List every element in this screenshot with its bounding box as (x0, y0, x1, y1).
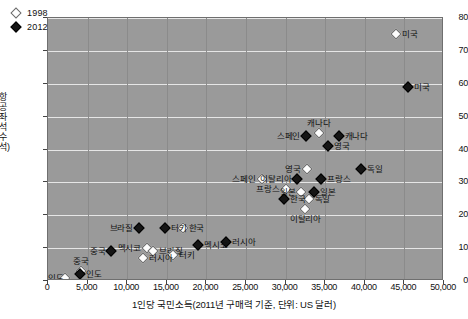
data-point-label: 한국 (290, 195, 306, 204)
x-axis-tick-label: 50,000 (420, 283, 466, 292)
legend-item-label: 1998 (27, 8, 48, 18)
gridline-horizontal (48, 84, 442, 85)
plot-area: 미국캐나다영국스페인프랑스일본독일이탈리아한국멕시코브라질터키러시아중국인도미국… (47, 17, 443, 280)
data-point-1998-러시아 (137, 252, 148, 263)
data-point-label: 인도 (86, 270, 102, 279)
legend-item-2012: 2012 (12, 20, 48, 34)
data-point-label: 캐나다 (48, 119, 443, 128)
gridline-vertical (167, 18, 168, 279)
data-point-label: 중국 (48, 257, 115, 266)
data-point-label: 인도 (48, 274, 59, 280)
data-point-2012-브라질 (133, 223, 144, 234)
x-axis-tick-mark (47, 280, 48, 284)
x-axis-tick-mark (166, 280, 167, 284)
data-point-label: 일본 (48, 188, 295, 197)
scatter-chart: 항공좌석수(석) 01020304050607080 05,00010,0001… (0, 0, 468, 319)
data-point-1998-영국 (301, 164, 312, 175)
data-point-1998-이탈리아 (300, 203, 311, 214)
legend-item-label: 2012 (27, 22, 48, 32)
gridline-vertical (127, 18, 128, 279)
gridline-vertical (404, 18, 405, 279)
data-point-label: 스페인 (48, 132, 300, 141)
data-point-label: 영국 (48, 165, 301, 174)
data-point-label: 터키 (179, 251, 195, 260)
gridline-horizontal (48, 117, 442, 118)
data-point-label: 미국 (402, 30, 418, 39)
data-point-label: 영국 (334, 142, 350, 151)
data-point-label: 러시아 (149, 254, 172, 263)
data-point-label: 프랑스 (327, 175, 350, 184)
data-point-label: 독일 (367, 165, 383, 174)
legend-item-1998: 1998 (12, 6, 48, 20)
data-point-label: 중국 (48, 247, 105, 256)
data-point-label: 터키 (171, 224, 187, 233)
x-axis-tick-mark (245, 280, 246, 284)
x-axis-tick-mark (87, 280, 88, 284)
x-axis-tick-mark (324, 280, 325, 284)
x-axis-tick-mark (126, 280, 127, 284)
data-point-label: 멕시코 (204, 241, 227, 250)
x-axis-tick-mark (285, 280, 286, 284)
y-axis-title: 항공좌석수(석) (0, 92, 10, 152)
data-point-2012-이탈리아 (292, 173, 303, 184)
legend-black-diamond-icon (10, 21, 21, 32)
data-point-label: 브라질 (48, 224, 133, 233)
data-point-label: 이탈리아 (48, 215, 443, 224)
gridline-horizontal (48, 51, 442, 52)
gridline-horizontal (48, 18, 442, 19)
data-point-label: 미국 (414, 83, 430, 92)
gridline-vertical (286, 18, 287, 279)
data-point-label: 러시아 (232, 238, 255, 247)
data-point-1998-캐나다 (313, 127, 324, 138)
data-point-label: 캐나다 (345, 132, 368, 141)
data-point-label: 한국 (189, 224, 205, 233)
data-point-2012-스페인 (301, 131, 312, 142)
chart-legend: 19982012 (8, 4, 52, 36)
data-point-label: 일본 (320, 188, 336, 197)
data-point-1998-미국 (391, 29, 402, 40)
x-axis-tick-mark (205, 280, 206, 284)
data-point-2012-터키 (160, 223, 171, 234)
gridline-horizontal (48, 150, 442, 151)
x-axis-title: 1인당 국민소득(2011년 구매력 기준, 단위: US 달러) (0, 297, 468, 311)
gridline-vertical (365, 18, 366, 279)
x-axis-tick-mark (403, 280, 404, 284)
legend-white-diamond-icon (10, 7, 21, 18)
gridline-vertical (88, 18, 89, 279)
x-axis-tick-mark (364, 280, 365, 284)
data-point-label: 이탈리아 (48, 175, 291, 184)
x-axis-tick-mark (443, 280, 444, 284)
